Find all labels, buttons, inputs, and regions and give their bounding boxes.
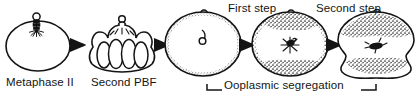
label-ooplasmic-segregation: Ooplasmic segregation — [224, 79, 344, 92]
central-aster-icon — [281, 37, 299, 53]
label-first-step: First step — [228, 2, 276, 15]
polar-body-icon — [33, 13, 40, 20]
stage-5-ooplasmic-segregation-second-step — [335, 8, 419, 84]
vegetal-pole-cap — [260, 60, 322, 75]
label-second-step: Second step — [316, 2, 381, 15]
label-second-pbf: Second PBF — [91, 76, 157, 89]
stage-4-ooplasmic-segregation-first-step — [252, 10, 328, 76]
stage-2-second-polar-body-formation — [89, 16, 154, 72]
label-metaphase-ii: Metaphase II — [6, 76, 74, 89]
stage-3-fertilized-egg — [165, 10, 241, 76]
oocyte-development-diagram: Metaphase II Second PBF First step Secon… — [0, 0, 419, 97]
animal-pole-cap — [341, 14, 412, 37]
stage-1-metaphase-ii-oocyte — [6, 13, 70, 71]
